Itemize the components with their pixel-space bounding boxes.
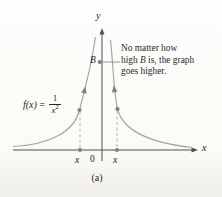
function-fraction: 1 x2 bbox=[49, 94, 61, 115]
denominator-exponent: 2 bbox=[55, 103, 58, 110]
b-point bbox=[98, 60, 102, 64]
curve-point-right bbox=[115, 107, 119, 111]
figure-caption: (a) bbox=[85, 172, 109, 183]
x-axis-arrow-icon bbox=[192, 148, 199, 153]
y-axis-label: y bbox=[96, 10, 100, 21]
b-point-label: B bbox=[90, 55, 96, 66]
curve-arrow-left-icon bbox=[81, 86, 88, 94]
annotation-text: No matter how high B is, the graph goes … bbox=[121, 43, 194, 78]
annotation-line-2: high B is, the graph bbox=[121, 55, 194, 67]
function-label: f(x) = 1 x2 bbox=[23, 94, 61, 115]
annotation-line-1: No matter how bbox=[121, 43, 194, 55]
y-axis-arrow-icon bbox=[100, 28, 105, 35]
function-lhs: f(x) = bbox=[23, 99, 45, 110]
annotation-line-3: goes higher. bbox=[121, 66, 194, 78]
function-name: f(x) bbox=[23, 99, 37, 110]
fraction-denominator: x2 bbox=[51, 105, 58, 115]
equals-sign: = bbox=[39, 99, 45, 110]
annotation-line2-post: is, the graph bbox=[146, 55, 194, 65]
x-axis-label: x bbox=[202, 142, 206, 153]
axis-point-right bbox=[115, 148, 119, 152]
figure-container: y x 0 x x B f(x) = 1 x2 No matter how hi… bbox=[0, 0, 222, 197]
annotation-line2-pre: high bbox=[121, 55, 140, 65]
axis-point-left bbox=[78, 148, 82, 152]
x-tick-label-left: x bbox=[75, 154, 79, 165]
x-tick-label-right: x bbox=[113, 154, 117, 165]
curve-point-left bbox=[77, 108, 81, 112]
origin-label: 0 bbox=[90, 154, 95, 165]
